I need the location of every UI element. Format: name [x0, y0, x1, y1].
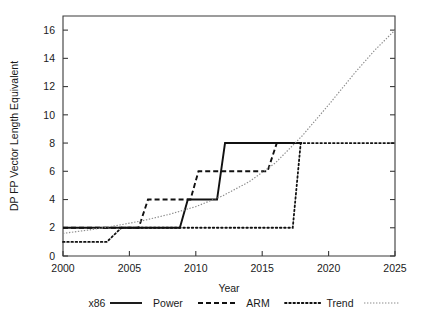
y-axis-tick-label: 8 [49, 137, 55, 149]
x-axis-title: Year [218, 282, 240, 294]
x-axis-tick-label: 2020 [317, 262, 341, 274]
y-axis-tick-label: 16 [43, 24, 55, 36]
chart-canvas: 0246810121416200020052010201520202025Yea… [0, 0, 425, 328]
y-axis-tick-label: 10 [43, 109, 55, 121]
plot-frame [63, 16, 395, 256]
y-axis-tick-label: 4 [49, 193, 55, 205]
x-axis-tick-label: 2025 [383, 262, 407, 274]
y-axis-tick-label: 12 [43, 80, 55, 92]
y-axis-tick-label: 2 [49, 221, 55, 233]
series-line-trend [63, 30, 395, 233]
legend-label-trend: Trend [326, 297, 353, 309]
legend-label-power: Power [153, 297, 183, 309]
x-axis-tick-label: 2005 [118, 262, 142, 274]
y-axis-tick-label: 14 [43, 52, 55, 64]
y-axis-tick-label: 0 [49, 250, 55, 262]
legend-label-arm: ARM [246, 297, 269, 309]
y-axis-title: DP FP Vector Length Equivalent [8, 61, 20, 211]
series-line-x86 [63, 143, 302, 228]
chart-figure: 0246810121416200020052010201520202025Yea… [0, 0, 425, 328]
legend-label-x86: x86 [89, 297, 106, 309]
x-axis-tick-label: 2010 [184, 262, 208, 274]
y-axis-tick-label: 6 [49, 165, 55, 177]
x-axis-tick-label: 2000 [51, 262, 75, 274]
x-axis-tick-label: 2015 [251, 262, 275, 274]
